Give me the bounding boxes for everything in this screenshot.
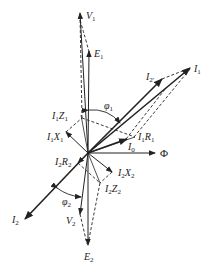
label-v1: V1 bbox=[86, 10, 96, 23]
phasor-e1 bbox=[88, 51, 89, 153]
label-i1: I1 bbox=[193, 63, 201, 76]
label-i1x1: I1X1 bbox=[46, 131, 64, 144]
label-i2r2: I2R2 bbox=[54, 156, 72, 169]
phasor-v2 bbox=[80, 153, 88, 214]
label-i1r1: I1R1 bbox=[137, 131, 155, 144]
angle-arc-phi1 bbox=[88, 110, 120, 123]
label-flux: Φ bbox=[160, 147, 168, 159]
label-i2z2: I2Z2 bbox=[104, 183, 121, 196]
label-i2: I2 bbox=[11, 214, 19, 227]
label-v2: V2 bbox=[66, 215, 76, 228]
angle-arc-phi2 bbox=[57, 188, 81, 197]
label-i1z1: I1Z1 bbox=[51, 110, 68, 123]
phasor-diagram: V1 E1 I1 I2' φ1 I1Z1 I1X1 I1R1 I0 Φ I2R2… bbox=[0, 0, 212, 268]
dashed-construction-lines bbox=[66, 15, 190, 244]
label-i2-prime: I2' bbox=[145, 71, 154, 84]
label-e2: E2 bbox=[83, 251, 94, 264]
label-i2x2: I2X2 bbox=[117, 167, 135, 180]
label-e1: E1 bbox=[93, 48, 104, 61]
label-i0: I0 bbox=[127, 141, 135, 154]
label-phi1: φ1 bbox=[104, 100, 114, 113]
label-phi2: φ2 bbox=[62, 196, 72, 209]
